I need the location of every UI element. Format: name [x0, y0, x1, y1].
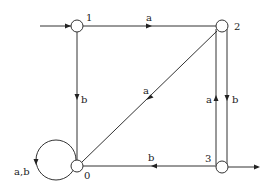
edge-3-0: b: [83, 152, 216, 169]
edge-1-2: a: [83, 12, 216, 29]
edge-label: b: [81, 94, 87, 105]
node-label: 1: [86, 12, 92, 23]
edge-label: a: [206, 94, 212, 105]
edge-2-0: a: [82, 31, 217, 162]
node-label: 0: [84, 170, 90, 181]
initial-arrow: [40, 24, 71, 29]
edge-label: a,b: [14, 166, 30, 177]
edge-label: b: [232, 94, 238, 105]
automaton-diagram: a b a b a b a,b 1: [0, 0, 273, 192]
edge-2-3: b: [225, 29, 239, 165]
node-2: 2: [216, 20, 240, 32]
final-arrow: [228, 165, 260, 170]
edge-label: a: [143, 85, 149, 96]
edge-3-2: a: [206, 29, 219, 165]
node-0: 0: [71, 160, 90, 181]
node-label: 3: [205, 153, 211, 164]
edge-1-0: b: [75, 32, 88, 160]
node-label: 2: [234, 21, 240, 32]
edge-label: a: [146, 12, 152, 23]
node-1: 1: [71, 12, 92, 32]
edge-label: b: [148, 152, 154, 163]
edge-0-0-loop: a,b: [14, 140, 76, 180]
